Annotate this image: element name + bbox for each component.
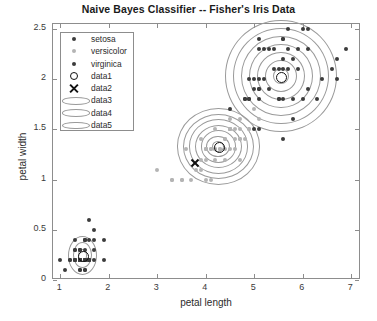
ellipse-contour-icon bbox=[62, 122, 90, 130]
data-point-virginica bbox=[267, 47, 271, 51]
data-point-virginica bbox=[335, 57, 339, 61]
legend[interactable]: setosaversicolorvirginicadata1data2data3… bbox=[60, 32, 134, 131]
y-tick bbox=[53, 29, 57, 30]
data-point-setosa bbox=[73, 238, 77, 242]
setosa-centroid bbox=[78, 251, 89, 262]
data-point-virginica bbox=[277, 67, 281, 71]
data-point-setosa bbox=[102, 258, 106, 262]
legend-item-data3[interactable]: data3 bbox=[61, 94, 133, 106]
legend-label: setosa bbox=[91, 33, 116, 45]
y-tick bbox=[53, 180, 57, 181]
data-point-setosa bbox=[63, 268, 67, 272]
legend-marker-open-circle-icon bbox=[61, 70, 87, 82]
y-tick bbox=[355, 280, 359, 281]
query-point-x bbox=[189, 157, 201, 169]
x-tick bbox=[254, 274, 255, 278]
data-point-virginica bbox=[277, 97, 281, 101]
y-tick bbox=[355, 230, 359, 231]
data-point-setosa bbox=[83, 268, 87, 272]
data-point-versicolor bbox=[204, 158, 208, 162]
legend-marker-cross-x-icon bbox=[61, 82, 87, 94]
x-tick bbox=[351, 274, 352, 278]
x-axis-label: petal length bbox=[52, 297, 360, 308]
data-point-virginica bbox=[301, 27, 305, 31]
cross-x-icon bbox=[68, 83, 79, 94]
x-tick-label: 3 bbox=[141, 282, 171, 292]
x-tick bbox=[109, 274, 110, 278]
data-point-setosa bbox=[92, 238, 96, 242]
data-point-versicolor bbox=[204, 178, 208, 182]
data-point-setosa bbox=[102, 238, 106, 242]
x-tick bbox=[157, 24, 158, 28]
x-tick bbox=[206, 24, 207, 28]
legend-marker-ellipse-contour-icon bbox=[61, 107, 87, 119]
data-point-virginica bbox=[296, 47, 300, 51]
data-point-virginica bbox=[306, 87, 310, 91]
legend-label: data2 bbox=[91, 82, 112, 94]
data-point-setosa bbox=[92, 228, 96, 232]
legend-label: data1 bbox=[91, 70, 112, 82]
legend-marker-filled-circle-icon bbox=[61, 33, 87, 45]
legend-label: data4 bbox=[91, 107, 112, 119]
filled-circle-icon bbox=[72, 49, 76, 53]
y-tick-label: 1 bbox=[16, 173, 46, 183]
data-point-setosa bbox=[73, 248, 77, 252]
legend-label: data5 bbox=[91, 119, 112, 131]
y-tick-label: 2.5 bbox=[16, 22, 46, 32]
y-tick bbox=[53, 79, 57, 80]
legend-item-setosa[interactable]: setosa bbox=[61, 33, 133, 45]
legend-item-data1[interactable]: data1 bbox=[61, 70, 133, 82]
legend-marker-filled-circle-icon bbox=[61, 45, 87, 57]
figure-canvas: Naive Bayes Classifier -- Fisher's Iris … bbox=[0, 0, 377, 321]
y-tick-label: 0.5 bbox=[16, 223, 46, 233]
y-tick bbox=[53, 230, 57, 231]
legend-label: virginica bbox=[91, 58, 122, 70]
data-point-virginica bbox=[281, 137, 285, 141]
versicolor-centroid bbox=[214, 142, 225, 153]
data-point-setosa bbox=[83, 238, 87, 242]
data-point-setosa bbox=[78, 268, 82, 272]
x-tick-label: 7 bbox=[335, 282, 365, 292]
x-tick bbox=[351, 24, 352, 28]
data-point-virginica bbox=[243, 97, 247, 101]
page-title: Naive Bayes Classifier -- Fisher's Iris … bbox=[0, 3, 377, 15]
data-point-versicolor bbox=[238, 158, 242, 162]
x-tick-label: 6 bbox=[287, 282, 317, 292]
ellipse-contour-icon bbox=[62, 109, 90, 117]
legend-item-data5[interactable]: data5 bbox=[61, 119, 133, 131]
y-tick bbox=[355, 180, 359, 181]
data-point-versicolor bbox=[189, 178, 193, 182]
data-point-versicolor bbox=[209, 178, 213, 182]
data-point-setosa bbox=[58, 258, 62, 262]
legend-label: versicolor bbox=[91, 45, 127, 57]
legend-item-versicolor[interactable]: versicolor bbox=[61, 45, 133, 57]
data-point-versicolor bbox=[155, 168, 159, 172]
legend-item-data4[interactable]: data4 bbox=[61, 107, 133, 119]
x-tick-label: 4 bbox=[190, 282, 220, 292]
x-tick bbox=[60, 24, 61, 28]
data-point-virginica bbox=[257, 127, 261, 131]
x-tick bbox=[60, 274, 61, 278]
x-tick bbox=[303, 274, 304, 278]
data-point-setosa bbox=[73, 258, 77, 262]
x-tick bbox=[109, 24, 110, 28]
x-tick bbox=[157, 274, 158, 278]
legend-item-data2[interactable]: data2 bbox=[61, 82, 133, 94]
legend-marker-filled-circle-icon bbox=[61, 58, 87, 70]
data-point-virginica bbox=[344, 47, 348, 51]
y-tick bbox=[355, 79, 359, 80]
data-point-virginica bbox=[272, 47, 276, 51]
legend-marker-ellipse-contour-icon bbox=[61, 119, 87, 131]
y-tick bbox=[53, 129, 57, 130]
y-tick-label: 0 bbox=[16, 273, 46, 283]
x-tick-label: 1 bbox=[44, 282, 74, 292]
y-axis-label: petal width bbox=[17, 87, 28, 227]
y-tick bbox=[53, 280, 57, 281]
y-tick bbox=[355, 29, 359, 30]
legend-item-virginica[interactable]: virginica bbox=[61, 58, 133, 70]
x-tick-label: 2 bbox=[93, 282, 123, 292]
filled-circle-icon bbox=[72, 62, 76, 66]
filled-circle-icon bbox=[72, 37, 76, 41]
x-tick-label: 5 bbox=[238, 282, 268, 292]
legend-marker-ellipse-contour-icon bbox=[61, 94, 87, 106]
